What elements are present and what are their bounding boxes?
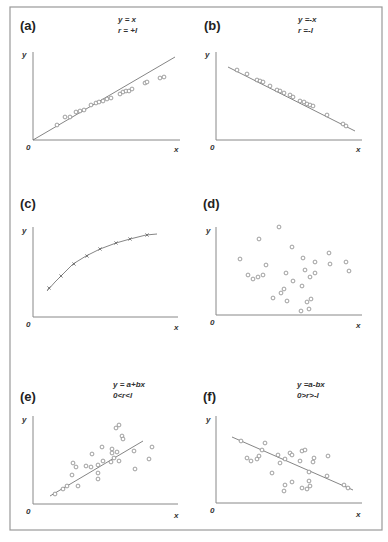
fit-curve <box>47 234 157 291</box>
x-axis-label: x <box>173 323 179 332</box>
panel-f: (f)y =a-bx0>r>-ly0x <box>203 380 362 519</box>
data-point <box>303 448 307 452</box>
data-point <box>283 483 287 487</box>
data-point <box>278 89 282 93</box>
data-point <box>117 423 121 427</box>
data-point <box>68 115 72 119</box>
equation-label: y = x <box>117 15 137 24</box>
data-point <box>65 484 69 488</box>
y-axis-label: y <box>21 50 27 59</box>
data-point <box>74 465 78 469</box>
data-point <box>313 271 317 275</box>
data-point <box>325 113 329 117</box>
data-point <box>305 300 309 304</box>
data-point <box>90 452 94 456</box>
data-point <box>278 461 282 465</box>
data-point <box>291 279 295 283</box>
data-point <box>264 263 268 267</box>
data-point <box>130 87 134 91</box>
data-point <box>96 463 100 467</box>
data-point <box>101 459 105 463</box>
data-point <box>245 72 249 76</box>
data-point <box>100 445 104 449</box>
panel-b: (b)y =-xr =-ly0x <box>204 15 362 154</box>
x-axis-label: x <box>173 511 179 520</box>
data-point <box>300 284 304 288</box>
data-point <box>132 449 136 453</box>
data-point <box>282 489 286 493</box>
panel-a: (a)y = xr = +ly0x <box>20 15 180 154</box>
origin-label: 0 <box>26 320 31 329</box>
data-point <box>145 80 149 84</box>
data-point <box>105 97 109 101</box>
data-point <box>109 460 113 464</box>
data-point <box>291 95 295 99</box>
data-point <box>282 287 286 291</box>
data-point <box>308 275 312 279</box>
data-point <box>301 256 305 260</box>
data-point <box>346 486 350 490</box>
data-point <box>71 461 75 465</box>
data-point <box>271 296 275 300</box>
data-point <box>277 225 281 229</box>
data-point <box>328 262 332 266</box>
data-point <box>249 459 253 463</box>
data-point <box>344 124 348 128</box>
data-point <box>150 445 154 449</box>
data-point <box>311 460 315 464</box>
data-point <box>261 80 265 84</box>
panels-container: (a)y = xr = +ly0x(b)y =-xr =-ly0x(c)y0x(… <box>20 15 362 520</box>
data-point <box>133 467 137 471</box>
panel-label: (f) <box>203 389 216 404</box>
y-axis-label: y <box>21 415 27 424</box>
data-point <box>238 257 242 261</box>
data-point <box>96 477 100 481</box>
panel-label: (b) <box>204 18 221 33</box>
data-point <box>115 450 119 454</box>
data-point <box>82 108 86 112</box>
panel-label: (a) <box>20 18 36 33</box>
data-point <box>303 268 307 272</box>
data-point <box>235 68 239 72</box>
data-point <box>260 448 264 452</box>
axes <box>216 416 362 503</box>
correlation-label: r =-l <box>298 26 314 35</box>
data-point <box>96 471 100 475</box>
data-point <box>308 484 312 488</box>
correlation-label: r = +l <box>118 26 138 35</box>
data-point <box>117 459 121 463</box>
x-axis-label: x <box>355 321 361 330</box>
y-axis-label: y <box>205 226 211 235</box>
panel-e: (e)y = a+bx0<r<ly0x <box>20 380 179 520</box>
origin-label: 0 <box>210 143 215 152</box>
data-point <box>290 245 294 249</box>
data-point <box>245 456 249 460</box>
data-point <box>53 492 57 496</box>
data-point <box>327 251 331 255</box>
data-point <box>279 291 283 295</box>
data-point <box>312 456 316 460</box>
data-point <box>158 76 162 80</box>
data-point <box>109 96 113 100</box>
data-point <box>246 273 250 277</box>
data-point <box>251 277 255 281</box>
data-point <box>89 465 93 469</box>
data-point <box>76 484 80 488</box>
data-point <box>256 275 260 279</box>
data-point <box>309 297 313 301</box>
data-point <box>298 459 302 463</box>
data-point <box>344 260 348 264</box>
correlation-label: 0>r>-l <box>297 391 320 400</box>
origin-label: 0 <box>210 506 215 515</box>
data-point <box>268 84 272 88</box>
origin-label: 0 <box>26 507 31 516</box>
x-axis-label: x <box>355 145 361 154</box>
fit-line <box>228 67 355 131</box>
data-point <box>347 269 351 273</box>
equation-label: y = a+bx <box>112 380 146 389</box>
data-point <box>342 483 346 487</box>
data-point <box>290 453 294 457</box>
data-point <box>257 454 261 458</box>
data-point <box>61 487 65 491</box>
figure-frame <box>10 7 382 530</box>
